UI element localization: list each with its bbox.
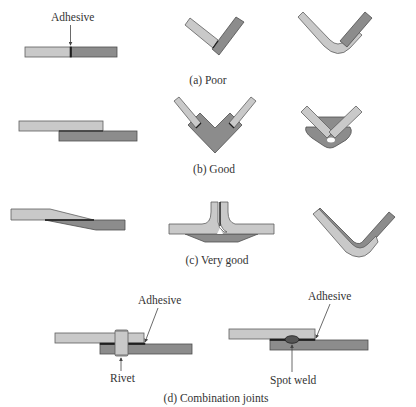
- butt-joint: Adhesive: [25, 11, 117, 57]
- corner-block-joint: [174, 97, 256, 153]
- tapered-lap-joint: [11, 209, 125, 230]
- simple-lap-joint: [19, 121, 137, 141]
- rivet-label: Rivet: [110, 372, 136, 384]
- caption-c: (c) Very good: [185, 254, 248, 267]
- adhesive-label-rivet: Adhesive: [138, 294, 181, 306]
- corner-strap-joint: [301, 106, 362, 148]
- row-d-combination: Adhesive Rivet Adhesive Spot weld (d) Co…: [55, 290, 368, 405]
- adhesive-spot-weld-joint: Adhesive Spot weld: [229, 290, 368, 387]
- adhesive-rivet-joint: Adhesive Rivet: [55, 294, 192, 384]
- row-b-good: (b) Good: [19, 97, 362, 176]
- corner-butt-joint: [185, 17, 244, 55]
- row-c-very-good: (c) Very good: [11, 202, 395, 267]
- adhesive-label-a: Adhesive: [51, 11, 94, 23]
- nested-corner-joint: [313, 208, 395, 257]
- t-joint-with-strap: [169, 202, 274, 242]
- adhesive-leader-weld: [316, 304, 330, 338]
- bent-corner-joint: [298, 12, 372, 54]
- spot-weld-label: Spot weld: [270, 374, 317, 387]
- adhesive-joint-designs-diagram: Adhesive (a) Poor: [0, 0, 416, 407]
- adhesive-leader-rivet: [145, 308, 158, 342]
- adhesive-label-weld: Adhesive: [308, 290, 351, 302]
- caption-b: (b) Good: [193, 163, 235, 176]
- caption-a: (a) Poor: [189, 74, 227, 87]
- rivet: [115, 330, 128, 356]
- spot-weld-nugget: [285, 336, 299, 344]
- row-a-poor: Adhesive (a) Poor: [25, 11, 372, 87]
- caption-d: (d) Combination joints: [164, 392, 269, 405]
